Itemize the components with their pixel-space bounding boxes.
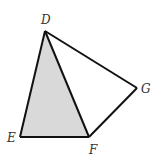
label-e: E	[6, 131, 16, 145]
label-f: F	[88, 143, 98, 157]
segment-gf	[89, 88, 137, 137]
label-d: D	[40, 13, 51, 27]
geometry-diagram: D E F G	[0, 0, 158, 158]
diagram-canvas: D E F G	[0, 0, 158, 158]
label-g: G	[141, 82, 151, 96]
shaded-triangle-def	[20, 31, 89, 137]
